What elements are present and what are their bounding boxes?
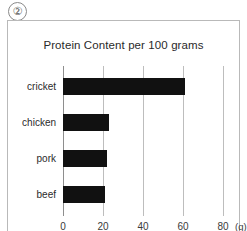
category-label: cricket — [27, 78, 56, 95]
bar-chicken — [63, 114, 109, 131]
xtick-label-80: 80 — [217, 221, 228, 231]
bar-pork — [63, 150, 107, 167]
category-label: pork — [37, 150, 56, 167]
xtick-label-0: 0 — [60, 221, 66, 231]
gridline-80 — [223, 66, 224, 216]
bar-cricket — [63, 78, 185, 95]
chart-panel: Protein Content per 100 grams cricket ch… — [7, 20, 240, 231]
chart-title: Protein Content per 100 grams — [8, 39, 239, 51]
category-label: chicken — [22, 114, 56, 131]
x-axis-unit-label: (g) — [235, 221, 247, 231]
bar-beef — [63, 186, 105, 203]
xtick-label-40: 40 — [137, 221, 148, 231]
category-label: beef — [37, 186, 56, 203]
plot-area: cricket chicken pork beef 0 20 40 60 80 … — [56, 66, 241, 216]
xtick-label-20: 20 — [97, 221, 108, 231]
figure-number-marker: ② — [8, 2, 27, 21]
xtick-label-60: 60 — [177, 221, 188, 231]
